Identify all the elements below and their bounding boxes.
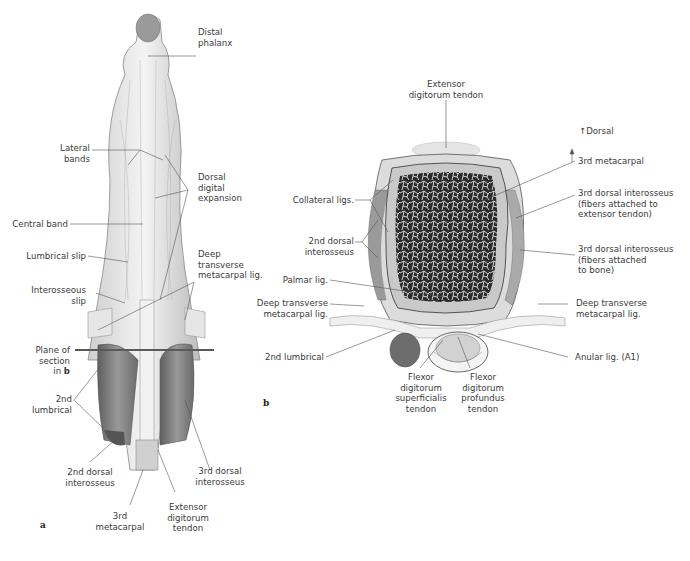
finger-dorsal-view: [75, 14, 214, 470]
label-distal-phalanx: Distal phalanx: [198, 27, 232, 48]
label-lateral-bands: Lateral bands: [40, 143, 90, 164]
label-deep-transverse-metacarpal-lig: Deep transverse metacarpal lig.: [198, 249, 263, 281]
label-palmar-lig: Palmar lig.: [262, 275, 328, 286]
label-anular-lig: Anular lig. (A1): [575, 352, 639, 363]
label-extensor-digitorum-tendon-b: Extensor digitorum tendon: [400, 79, 492, 100]
label-collateral-ligs: Collateral ligs.: [262, 195, 354, 206]
label-deep-transverse-left: Deep transverse metacarpal lig.: [240, 298, 328, 319]
label-interosseous-slip: Interosseous slip: [20, 285, 86, 306]
label-extensor-digitorum-tendon-a: Extensor digitorum tendon: [160, 502, 216, 534]
label-2nd-lumbrical-b: 2nd lumbrical: [240, 352, 324, 363]
label-3rd-metacarpal: 3rd metacarpal: [92, 511, 148, 532]
label-plane-of-section: Plane of section in b: [20, 345, 70, 377]
cross-section: [330, 142, 565, 372]
label-central-band: Central band: [10, 219, 68, 230]
panel-letter-a: a: [40, 520, 46, 530]
label-dorsal-digital-expansion: Dorsal digital expansion: [198, 172, 242, 204]
label-2nd-dorsal-interosseus: 2nd dorsal interosseus: [60, 467, 120, 488]
label-fdp-tendon: Flexor digitorum profundus tendon: [452, 372, 514, 414]
label-deep-transverse-right: Deep transverse metacarpal lig.: [576, 298, 647, 319]
label-3rd-dorsal-interosseus-bone: 3rd dorsal interosseus (fibers attached …: [578, 244, 673, 276]
orientation-dorsal: ↑Dorsal: [579, 126, 614, 137]
label-lumbrical-slip: Lumbrical slip: [10, 251, 86, 262]
label-3rd-metacarpal-b: 3rd metacarpal: [578, 156, 644, 167]
panel-letter-b: b: [263, 398, 269, 408]
label-2nd-lumbrical: 2nd lumbrical: [20, 394, 72, 415]
label-fds-tendon: Flexor digitorum superficialis tendon: [390, 372, 452, 414]
label-3rd-dorsal-interosseus-tendon: 3rd dorsal interosseus (fibers attached …: [578, 188, 673, 220]
label-3rd-dorsal-interosseus: 3rd dorsal interosseus: [190, 466, 250, 487]
label-2nd-dorsal-interosseus-b: 2nd dorsal interosseus: [282, 236, 354, 257]
